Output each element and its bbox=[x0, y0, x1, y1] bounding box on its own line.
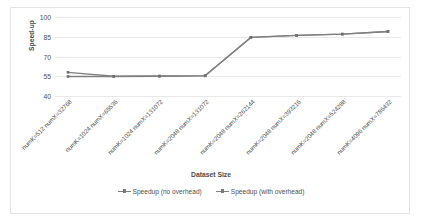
chart-container: Speed-up 40557085100 numK=512 numX=32768… bbox=[10, 7, 410, 214]
y-axis-title: Speed-up bbox=[28, 6, 35, 66]
data-point-marker bbox=[341, 33, 344, 36]
y-tick-label: 55 bbox=[43, 73, 51, 80]
x-tick-label: numK=4096 numX=786432 bbox=[335, 98, 393, 156]
chart-legend: Speedup (no overhead)Speedup (with overh… bbox=[11, 188, 411, 195]
data-point-marker bbox=[250, 36, 253, 39]
gridline bbox=[55, 96, 401, 97]
data-point-marker bbox=[67, 71, 70, 74]
series-line bbox=[68, 31, 388, 76]
y-tick-label: 70 bbox=[43, 53, 51, 60]
y-tick-label: 40 bbox=[43, 93, 51, 100]
plot-area: 40557085100 bbox=[55, 17, 401, 96]
data-point-marker bbox=[112, 75, 115, 78]
legend-item[interactable]: Speedup (no overhead) bbox=[118, 188, 202, 195]
data-point-marker bbox=[158, 75, 161, 78]
legend-item[interactable]: Speedup (with overhead) bbox=[216, 188, 305, 195]
x-tick-label: numK=512 numX=32768 bbox=[20, 98, 73, 151]
legend-marker-icon bbox=[216, 188, 229, 195]
y-tick-label: 100 bbox=[40, 14, 51, 21]
x-axis-title: Dataset Size bbox=[11, 171, 411, 178]
data-point-marker bbox=[67, 75, 70, 78]
y-tick-label: 85 bbox=[43, 33, 51, 40]
legend-marker-icon bbox=[118, 188, 131, 195]
series-line bbox=[68, 31, 388, 76]
data-point-marker bbox=[387, 30, 390, 33]
legend-label: Speedup (with overhead) bbox=[231, 188, 305, 195]
x-axis-tick-labels: numK=512 numX=32768numK=1024 numX=65536n… bbox=[55, 98, 401, 176]
series-lines bbox=[55, 17, 401, 96]
data-point-marker bbox=[295, 34, 298, 37]
data-point-marker bbox=[204, 75, 207, 78]
legend-label: Speedup (no overhead) bbox=[133, 188, 202, 195]
